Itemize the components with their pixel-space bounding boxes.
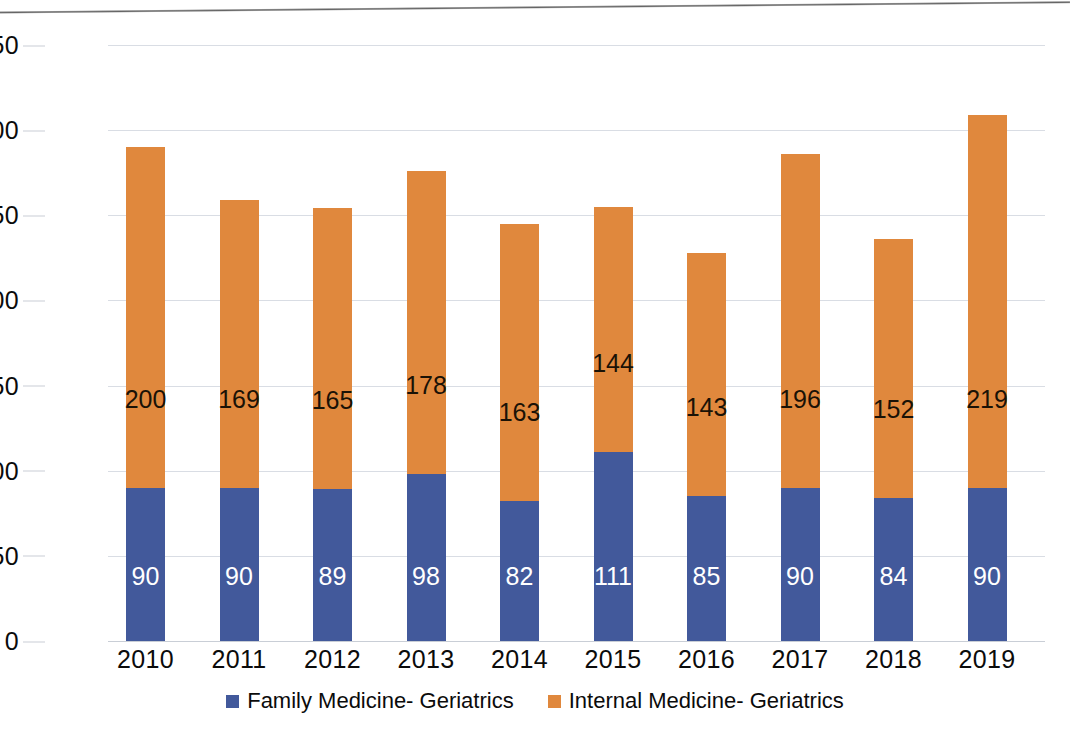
- y-tick-label-0: 0: [0, 629, 19, 654]
- legend-item[interactable]: Internal Medicine- Geriatrics: [548, 690, 844, 712]
- bar-segment-internal-medicine[interactable]: 169: [220, 200, 259, 488]
- bar-segment-internal-medicine[interactable]: 196: [781, 154, 820, 488]
- bar-segment-family-medicine[interactable]: 85: [687, 496, 726, 641]
- stacked-bar-chart: 9020090169891659817882163111144851439019…: [0, 0, 1070, 753]
- bar-value-label: 178: [405, 373, 447, 398]
- y-tick-label-100: 100: [0, 458, 19, 483]
- y-tick-label-300: 300: [0, 118, 19, 143]
- legend-swatch-icon: [548, 695, 561, 708]
- bar-value-label: 111: [594, 564, 632, 589]
- y-tick-label-50: 50: [0, 543, 19, 568]
- bar-segment-family-medicine[interactable]: 90: [220, 488, 259, 641]
- bar-segment-family-medicine[interactable]: 98: [407, 474, 446, 641]
- y-tick-label-200: 200: [0, 288, 19, 313]
- x-tick-label-2017: 2017: [755, 645, 845, 674]
- bar-segment-family-medicine[interactable]: 90: [968, 488, 1007, 641]
- bar-group[interactable]: 90169: [220, 45, 259, 641]
- y-tick-label-350: 350: [0, 33, 19, 58]
- bar-value-label: 219: [966, 387, 1008, 412]
- x-tick-label-2013: 2013: [381, 645, 471, 674]
- bar-segment-internal-medicine[interactable]: 200: [126, 147, 165, 488]
- bar-value-label: 165: [312, 388, 354, 413]
- x-tick-label-2014: 2014: [475, 645, 565, 674]
- x-tick-label-2011: 2011: [194, 645, 284, 674]
- bar-group[interactable]: 90200: [126, 45, 165, 641]
- bar-value-label: 82: [506, 564, 534, 589]
- bar-segment-internal-medicine[interactable]: 144: [594, 207, 633, 452]
- bar-segment-internal-medicine[interactable]: 143: [687, 253, 726, 497]
- bar-group[interactable]: 90219: [968, 45, 1007, 641]
- bar-value-label: 152: [873, 397, 915, 422]
- gridline-0: [108, 641, 1045, 642]
- x-axis-tick-labels: 2010201120122013201420152016201720182019: [108, 645, 1045, 685]
- bar-value-label: 90: [973, 564, 1001, 589]
- legend-swatch-icon: [226, 695, 239, 708]
- plot-area: 9020090169891659817882163111144851439019…: [108, 45, 1045, 641]
- bar-value-label: 98: [412, 564, 440, 589]
- bar-segment-family-medicine[interactable]: 111: [594, 452, 633, 641]
- bar-value-label: 163: [499, 400, 541, 425]
- bar-group[interactable]: 89165: [313, 45, 352, 641]
- bar-value-label: 196: [779, 387, 821, 412]
- x-tick-label-2019: 2019: [942, 645, 1032, 674]
- legend-item[interactable]: Family Medicine- Geriatrics: [226, 690, 514, 712]
- bar-value-label: 90: [786, 564, 814, 589]
- page-top-rule: [0, 1, 1070, 14]
- bar-segment-internal-medicine[interactable]: 163: [500, 224, 539, 502]
- chart-legend: Family Medicine- GeriatricsInternal Medi…: [0, 690, 1070, 712]
- y-tick-label-150: 150: [0, 373, 19, 398]
- x-tick-label-2015: 2015: [568, 645, 658, 674]
- x-tick-label-2012: 2012: [288, 645, 378, 674]
- bar-group[interactable]: 98178: [407, 45, 446, 641]
- bar-value-label: 90: [225, 564, 253, 589]
- bar-group[interactable]: 90196: [781, 45, 820, 641]
- x-tick-label-2018: 2018: [849, 645, 939, 674]
- bar-segment-family-medicine[interactable]: 89: [313, 489, 352, 641]
- x-tick-label-2010: 2010: [101, 645, 191, 674]
- bar-segment-internal-medicine[interactable]: 152: [874, 239, 913, 498]
- bar-value-label: 200: [125, 387, 167, 412]
- bar-segment-family-medicine[interactable]: 82: [500, 501, 539, 641]
- x-tick-label-2016: 2016: [662, 645, 752, 674]
- bar-segment-internal-medicine[interactable]: 178: [407, 171, 446, 474]
- bar-segment-family-medicine[interactable]: 90: [781, 488, 820, 641]
- bar-segment-family-medicine[interactable]: 90: [126, 488, 165, 641]
- legend-label: Family Medicine- Geriatrics: [247, 690, 514, 712]
- bar-segment-internal-medicine[interactable]: 219: [968, 115, 1007, 488]
- bar-value-label: 85: [693, 564, 721, 589]
- bar-value-label: 89: [319, 564, 347, 589]
- bar-group[interactable]: 84152: [874, 45, 913, 641]
- bar-group[interactable]: 111144: [594, 45, 633, 641]
- bar-value-label: 84: [880, 564, 908, 589]
- bar-value-label: 144: [592, 351, 634, 376]
- bar-value-label: 90: [132, 564, 160, 589]
- bar-value-label: 169: [218, 387, 260, 412]
- bar-series-container: 9020090169891659817882163111144851439019…: [108, 45, 1045, 641]
- legend-label: Internal Medicine- Geriatrics: [569, 690, 844, 712]
- bar-value-label: 143: [686, 395, 728, 420]
- bar-segment-internal-medicine[interactable]: 165: [313, 208, 352, 489]
- y-tick-label-250: 250: [0, 203, 19, 228]
- bar-segment-family-medicine[interactable]: 84: [874, 498, 913, 641]
- bar-group[interactable]: 82163: [500, 45, 539, 641]
- bar-group[interactable]: 85143: [687, 45, 726, 641]
